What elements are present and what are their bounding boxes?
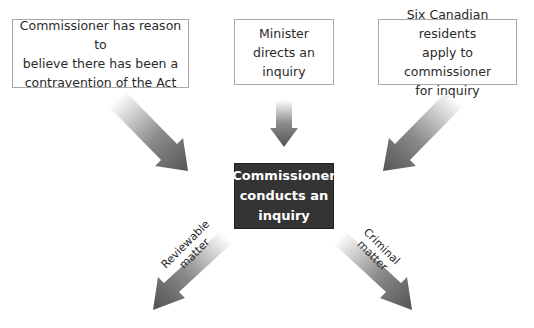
source-text-commissioner: Commissioner has reason to believe there…: [13, 16, 188, 92]
source-box-commissioner: Commissioner has reason to believe there…: [12, 19, 189, 88]
source-box-minister: Minister directs an inquiry: [234, 19, 334, 85]
source-box-residents: Six Canadian residents apply to commissi…: [378, 19, 517, 85]
arrow-minister-to-center: [270, 100, 298, 147]
arrow-residents-to-center: [383, 91, 462, 171]
source-text-residents: Six Canadian residents apply to commissi…: [379, 5, 516, 100]
arrow-commissioner-to-center: [109, 91, 188, 171]
source-text-minister: Minister directs an inquiry: [253, 24, 315, 81]
center-box-inquiry: Commissioner conducts an inquiry: [234, 163, 334, 229]
center-text: Commissioner conducts an inquiry: [232, 166, 335, 226]
